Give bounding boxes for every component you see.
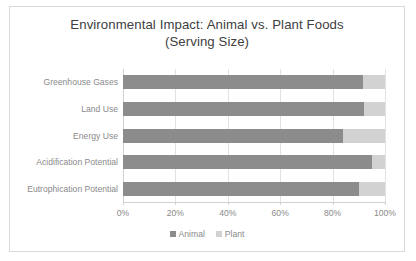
x-axis-tick-mark bbox=[175, 202, 176, 205]
x-axis-tick-mark bbox=[280, 202, 281, 205]
chart-legend: Animal Plant bbox=[10, 229, 404, 239]
y-axis-label-land-use: Land Use bbox=[10, 104, 118, 114]
chart-title-line-1: Environmental Impact: Animal vs. Plant F… bbox=[10, 16, 404, 33]
bar-row bbox=[123, 75, 385, 89]
bar-segment-animal[interactable] bbox=[123, 155, 372, 169]
x-axis-tick-mark bbox=[228, 202, 229, 205]
plot-area bbox=[123, 69, 385, 202]
legend-label-animal: Animal bbox=[179, 229, 205, 239]
bar-row bbox=[123, 129, 385, 143]
y-axis-label-greenhouse-gases: Greenhouse Gases bbox=[10, 77, 118, 87]
y-axis-label-energy-use: Energy Use bbox=[10, 131, 118, 141]
x-axis-tick-label: 60% bbox=[260, 208, 300, 218]
x-axis-tick-label: 100% bbox=[365, 208, 405, 218]
bar-segment-plant[interactable] bbox=[363, 75, 385, 89]
legend-item-plant[interactable]: Plant bbox=[216, 229, 245, 239]
gridline-100% bbox=[385, 69, 386, 202]
y-axis-label-acidification-potential: Acidification Potential bbox=[10, 157, 118, 167]
legend-swatch-animal-icon bbox=[170, 231, 176, 237]
bar-segment-plant[interactable] bbox=[359, 182, 385, 196]
bar-segment-animal[interactable] bbox=[123, 129, 343, 143]
y-axis-label-eutrophication-potential: Eutrophication Potential bbox=[10, 184, 118, 194]
bar-row bbox=[123, 182, 385, 196]
x-axis-tick-mark bbox=[123, 202, 124, 205]
x-axis-line bbox=[123, 202, 385, 203]
chart-container: Environmental Impact: Animal vs. Plant F… bbox=[9, 6, 405, 252]
y-axis-category-labels: Greenhouse Gases Land Use Energy Use Aci… bbox=[10, 69, 118, 202]
chart-title: Environmental Impact: Animal vs. Plant F… bbox=[10, 16, 404, 50]
x-axis-tick-label: 40% bbox=[208, 208, 248, 218]
chart-title-line-2: (Serving Size) bbox=[10, 33, 404, 50]
x-axis-tick-label: 0% bbox=[103, 208, 143, 218]
legend-swatch-plant-icon bbox=[216, 231, 222, 237]
bar-segment-plant[interactable] bbox=[372, 155, 385, 169]
legend-label-plant: Plant bbox=[225, 229, 245, 239]
bar-segment-plant[interactable] bbox=[364, 102, 385, 116]
legend-item-animal[interactable]: Animal bbox=[170, 229, 205, 239]
bar-segment-animal[interactable] bbox=[123, 102, 364, 116]
x-axis-tick-mark bbox=[333, 202, 334, 205]
bar-segment-animal[interactable] bbox=[123, 182, 359, 196]
bar-series-layer bbox=[123, 69, 385, 202]
bar-row bbox=[123, 102, 385, 116]
bar-segment-plant[interactable] bbox=[343, 129, 385, 143]
bar-row bbox=[123, 155, 385, 169]
bar-segment-animal[interactable] bbox=[123, 75, 363, 89]
x-axis-tick-label: 80% bbox=[313, 208, 353, 218]
x-axis-tick-label: 20% bbox=[155, 208, 195, 218]
x-axis-tick-mark bbox=[385, 202, 386, 205]
